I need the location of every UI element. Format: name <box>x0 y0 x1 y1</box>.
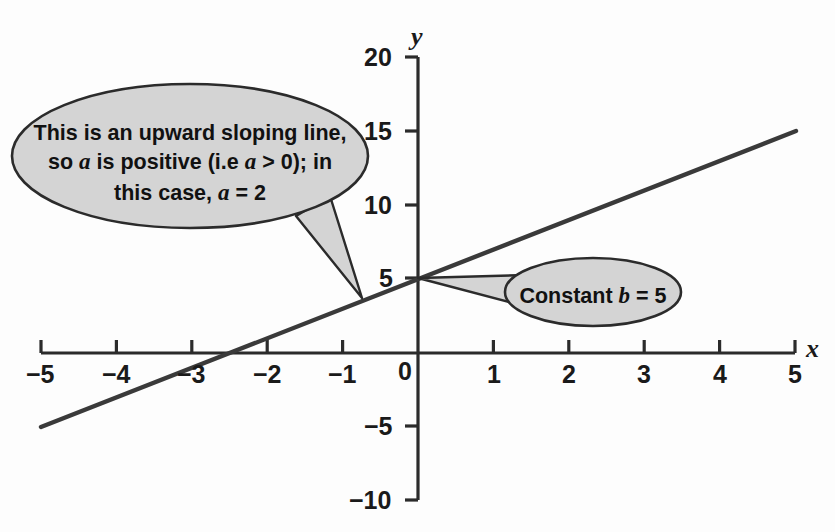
x-tick-label-1: 1 <box>487 362 501 387</box>
y-tick-label--5: −5 <box>364 414 393 439</box>
slope-line2-var-2: a <box>245 149 257 174</box>
y-axis-label: y <box>411 24 423 50</box>
slope-line3-part-a: this case, <box>114 181 218 205</box>
x-tick-label-3: 3 <box>637 362 651 387</box>
x-tick-label--5: −5 <box>26 362 55 387</box>
slope-callout-line-1: This is an upward sloping line, <box>30 119 350 147</box>
slope-line3-var: a <box>218 180 230 205</box>
line-graph-figure: −5 −4 −3 −2 −1 0 1 2 3 4 5 20 15 10 5 −5… <box>0 0 835 532</box>
x-tick-label-0: 0 <box>398 359 412 384</box>
slope-callout-text: This is an upward sloping line, so a is … <box>30 119 350 208</box>
intercept-text-part-a: Constant <box>519 284 618 308</box>
slope-callout-line-3: this case, a = 2 <box>30 178 350 208</box>
y-tick-label-20: 20 <box>364 45 392 70</box>
y-tick-label--10: −10 <box>349 488 391 513</box>
y-tick-label-15: 15 <box>364 119 392 144</box>
x-tick-label-2: 2 <box>562 362 576 387</box>
x-tick-label--1: −1 <box>328 362 357 387</box>
slope-line2-var-1: a <box>79 149 91 174</box>
y-tick-label-5: 5 <box>379 266 393 291</box>
x-tick-label--4: −4 <box>102 362 131 387</box>
intercept-callout-text: Constant b = 5 <box>513 281 673 311</box>
slope-line2-part-c: > 0); in <box>256 150 332 174</box>
slope-line3-part-b: = 2 <box>230 181 266 205</box>
plot-canvas <box>0 0 835 532</box>
x-axis-label: x <box>806 336 819 362</box>
slope-line2-part-b: is positive (i.e <box>91 150 245 174</box>
intercept-text-part-b: = 5 <box>630 284 666 308</box>
y-tick-label-10: 10 <box>364 193 392 218</box>
slope-callout-line-2: so a is positive (i.e a > 0); in <box>30 147 350 177</box>
x-tick-label-5: 5 <box>788 362 802 387</box>
intercept-var: b <box>619 283 631 308</box>
slope-line2-part-a: so <box>48 150 79 174</box>
x-tick-label--3: −3 <box>177 362 206 387</box>
x-tick-label-4: 4 <box>713 362 727 387</box>
x-tick-label--2: −2 <box>253 362 282 387</box>
